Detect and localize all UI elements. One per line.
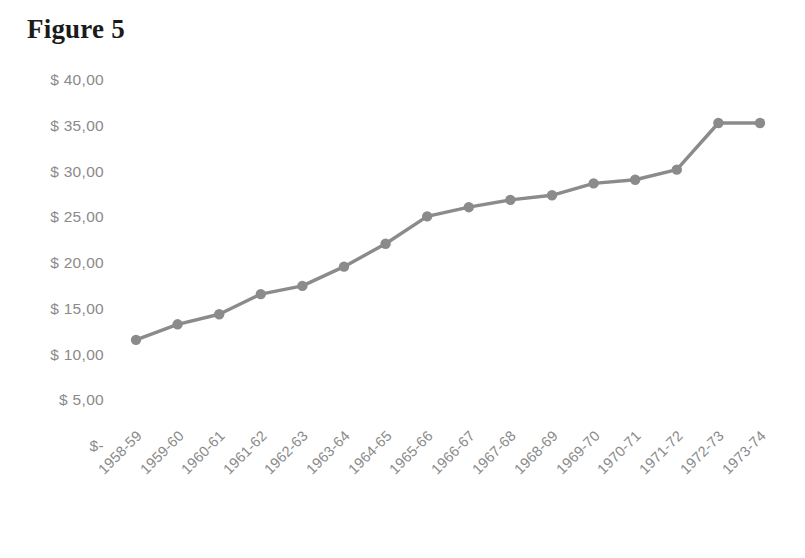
x-axis-tick-label: 1962-63 xyxy=(261,427,311,477)
chart-plot-area: $ 40,00$ 35,00$ 30,00$ 25,00$ 20,00$ 15,… xyxy=(0,0,805,558)
x-axis-tick-label: 1973-74 xyxy=(719,427,769,477)
x-axis-tick-label: 1959-60 xyxy=(137,427,187,477)
x-axis-tick-label: 1963-64 xyxy=(303,427,353,477)
x-axis-tick-label: 1970-71 xyxy=(594,427,644,477)
x-axis-tick-label: 1971-72 xyxy=(636,427,686,477)
x-axis-tick-label: 1958-59 xyxy=(95,427,145,477)
x-axis-tick-label: 1960-61 xyxy=(178,427,228,477)
x-axis: 1958-591959-601960-611961-621962-631963-… xyxy=(0,0,805,558)
x-axis-tick-label: 1969-70 xyxy=(553,427,603,477)
x-axis-tick-label: 1968-69 xyxy=(511,427,561,477)
figure-container: Figure 5 $ 40,00$ 35,00$ 30,00$ 25,00$ 2… xyxy=(0,0,805,558)
x-axis-tick-label: 1966-67 xyxy=(428,427,478,477)
x-axis-tick-label: 1972-73 xyxy=(677,427,727,477)
x-axis-tick-label: 1964-65 xyxy=(345,427,395,477)
x-axis-tick-label: 1961-62 xyxy=(220,427,270,477)
x-axis-tick-label: 1967-68 xyxy=(469,427,519,477)
x-axis-tick-label: 1965-66 xyxy=(386,427,436,477)
